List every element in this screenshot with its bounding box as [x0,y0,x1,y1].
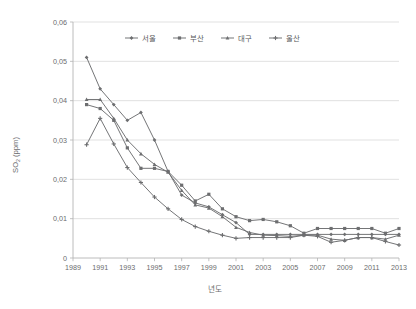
data-point-marker [207,193,210,196]
data-point-marker [275,220,278,223]
legend-item-3[interactable]: 대구 [221,34,252,43]
legend-label: 대구 [238,34,252,43]
x-tick-label: 2001 [228,263,244,272]
data-point-marker [234,236,238,240]
x-tick-label: 2009 [337,263,353,272]
data-point-marker [221,207,224,210]
series-line [87,118,399,245]
data-point-marker [329,240,333,244]
data-point-marker [207,229,211,233]
y-tick-label: 0,04 [53,96,67,105]
so2-line-chart: 00,010,020,030,040,050,06 19891991199319… [0,0,416,309]
data-point-marker [153,167,156,170]
series-2 [85,103,401,235]
series-1 [85,56,401,237]
data-point-marker [139,167,142,170]
series-line [87,105,399,234]
series-4 [84,116,401,247]
x-axis-tick-labels: 1989199119931995199719992001200320052007… [65,263,407,272]
data-point-marker [289,224,292,227]
data-point-marker [384,232,387,235]
data-point-marker [247,235,251,239]
grid-lines [73,22,399,219]
chart-container: 00,010,020,030,040,050,06 19891991199319… [0,0,416,309]
x-axis-title: 년도 [208,284,222,294]
data-point-marker [397,243,401,247]
y-tick-label: 0,06 [53,18,67,27]
data-point-marker [112,142,116,146]
data-point-marker [397,233,401,237]
data-point-marker [99,107,102,110]
legend-label: 부산 [190,34,204,43]
data-point-marker [234,215,237,218]
data-point-marker [193,224,197,228]
y-tick-label: 0 [63,254,67,263]
x-tick-label: 2011 [364,263,379,272]
y-tick-label: 0,05 [53,57,67,66]
data-point-marker [329,227,332,230]
x-axis-tick-marks [73,258,399,261]
data-point-marker [180,184,183,187]
data-point-marker [85,103,88,106]
data-point-marker [273,36,277,40]
series-3 [85,98,401,242]
x-tick-label: 1999 [201,263,217,272]
data-point-marker [84,143,88,147]
legend-label: 서울 [142,34,156,43]
series-line [87,99,399,240]
svg-text:SO2 (ppm): SO2 (ppm) [11,137,21,173]
x-tick-label: 1991 [92,263,108,272]
data-point-marker [343,233,347,237]
x-tick-label: 2007 [310,263,326,272]
y-tick-label: 0,01 [53,214,67,223]
legend-item-4[interactable]: 울산 [269,34,300,43]
x-tick-label: 1993 [119,263,135,272]
x-tick-label: 1989 [65,263,81,272]
y-tick-label: 0,03 [53,136,67,145]
data-point-marker [98,116,102,120]
y-axis-title: SO2 (ppm) [11,137,21,173]
y-axis-tick-labels: 00,010,020,030,040,050,06 [53,18,73,263]
x-tick-label: 1997 [174,263,190,272]
x-tick-label: 1995 [147,263,163,272]
data-point-marker [194,199,197,202]
chart-legend: 서울부산대구울산 [125,34,300,43]
data-point-marker [139,111,143,115]
data-point-marker [397,227,400,230]
data-point-marker [262,218,265,221]
y-tick-label: 0,02 [53,175,67,184]
data-point-marker [126,146,129,149]
x-tick-label: 2003 [255,263,271,272]
data-point-marker [220,233,224,237]
legend-item-2[interactable]: 부산 [173,34,204,43]
data-point-marker [153,138,157,142]
x-tick-label: 2005 [282,263,298,272]
x-tick-label: 2013 [391,263,407,272]
data-point-marker [329,233,333,237]
legend-item-1[interactable]: 서울 [125,34,156,43]
data-point-marker [248,219,251,222]
legend-label: 울산 [286,34,300,43]
data-point-marker [178,36,181,39]
data-point-marker [180,193,184,197]
data-point-marker [85,56,89,60]
data-point-marker [316,227,319,230]
data-point-marker [130,36,134,40]
data-point-marker [357,227,360,230]
data-point-marker [343,227,346,230]
data-point-marker [370,227,373,230]
